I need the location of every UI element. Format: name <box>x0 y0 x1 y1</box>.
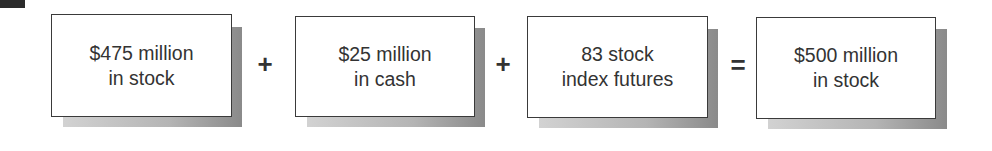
box-line-1: $500 million <box>794 43 898 68</box>
cash-25-box: $25 million in cash <box>295 16 475 117</box>
corner-marker <box>0 0 25 8</box>
futures-83-box: 83 stock index futures <box>527 16 708 118</box>
stock-500-box: $500 million in stock <box>756 17 936 119</box>
box-line-2: in stock <box>813 68 879 93</box>
box-line-1: $25 million <box>338 42 431 67</box>
plus-operator: + <box>253 51 277 77</box>
box-line-1: 83 stock <box>581 42 654 67</box>
box-line-2: index futures <box>562 67 674 92</box>
box-line-1: $475 million <box>89 41 193 66</box>
stock-475-box: $475 million in stock <box>51 14 232 117</box>
box-line-2: in stock <box>108 66 174 91</box>
plus-operator: + <box>491 51 515 77</box>
box-line-2: in cash <box>354 67 416 92</box>
equals-operator: = <box>726 52 750 78</box>
